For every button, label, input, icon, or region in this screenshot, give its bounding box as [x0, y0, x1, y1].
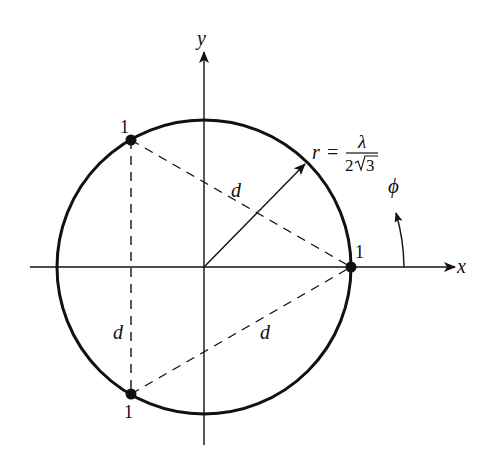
radius-symbol: r: [312, 141, 320, 163]
radius-arrow: [204, 164, 305, 267]
radius-numerator: λ: [357, 131, 366, 152]
circular-array-diagram: y x ϕ 1 1 1 d d d r = λ 2 3: [0, 0, 492, 458]
distance-label-bottom: d: [260, 321, 271, 343]
element-point-240deg: [126, 389, 137, 400]
distance-label-left: d: [113, 321, 124, 343]
distance-label-top: d: [231, 179, 242, 201]
point-label-0deg: 1: [355, 242, 364, 262]
x-axis-label: x: [456, 255, 466, 277]
element-point-0deg: [346, 262, 357, 273]
radius-denominator-root: 3: [366, 156, 375, 175]
y-axis-label: y: [195, 27, 206, 50]
dashed-side-bottom: [131, 267, 351, 394]
radius-formula: r = λ 2 3: [312, 131, 378, 175]
phi-angle-arc: [396, 213, 404, 267]
radius-denominator-coeff: 2: [345, 156, 354, 175]
radius-equals: =: [327, 141, 338, 163]
phi-label: ϕ: [388, 174, 399, 198]
point-label-240deg: 1: [124, 402, 133, 422]
point-label-120deg: 1: [120, 117, 129, 137]
